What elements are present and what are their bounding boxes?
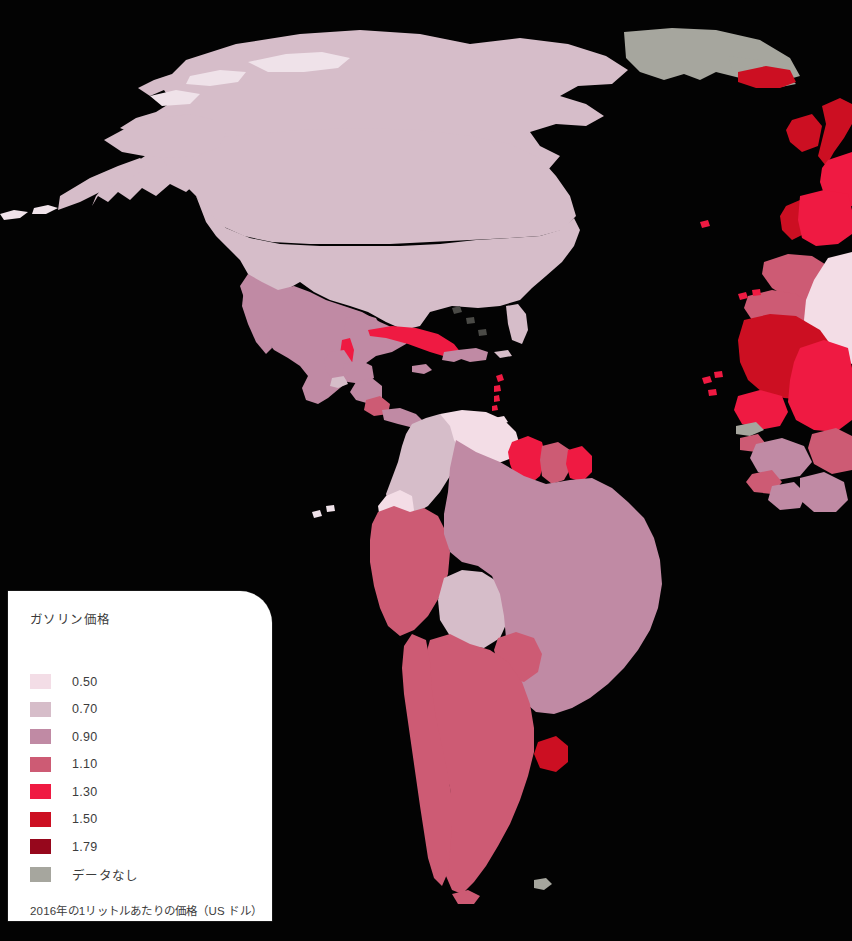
legend-label-no-data: データなし (72, 865, 139, 884)
legend-swatch-130 (30, 784, 51, 799)
legend-row[interactable]: 0.90 (30, 723, 254, 751)
region-mali[interactable] (788, 340, 852, 432)
legend-label-070: 0.70 (72, 702, 98, 716)
legend-swatch-050 (30, 674, 51, 689)
legend-row[interactable]: 1.30 (30, 778, 254, 806)
legend-row[interactable]: 1.79 (30, 833, 254, 861)
legend-swatch-179 (30, 839, 51, 854)
region-spain[interactable] (798, 190, 852, 246)
legend-row[interactable]: 1.50 (30, 806, 254, 834)
legend-title: ガソリン価格 (30, 613, 254, 628)
legend-row[interactable]: データなし (30, 861, 254, 889)
legend-swatch-070 (30, 702, 51, 717)
legend-swatch-no-data (30, 867, 51, 882)
region-senegal[interactable] (734, 390, 788, 430)
legend-scale-list: 0.50 0.70 0.90 1.10 1.30 1.50 (30, 668, 254, 888)
legend-label-150: 1.50 (72, 812, 98, 826)
legend-footnote: 2016年の1リットルあたりの価格（US ドル） (30, 902, 254, 918)
legend-swatch-150 (30, 812, 51, 827)
legend-label-050: 0.50 (72, 675, 98, 689)
legend-card: ガソリン価格 0.50 0.70 0.90 1.10 1.30 (8, 591, 272, 921)
map-viewport: ガソリン価格 0.50 0.70 0.90 1.10 1.30 (0, 0, 852, 941)
legend-label-130: 1.30 (72, 785, 98, 799)
legend-row[interactable]: 1.10 (30, 751, 254, 779)
legend-label-110: 1.10 (72, 757, 98, 771)
legend-row[interactable]: 0.70 (30, 696, 254, 724)
legend-swatch-090 (30, 729, 51, 744)
legend-row[interactable]: 0.50 (30, 668, 254, 696)
legend-label-179: 1.79 (72, 840, 98, 854)
legend-swatch-110 (30, 757, 51, 772)
legend-label-090: 0.90 (72, 730, 98, 744)
